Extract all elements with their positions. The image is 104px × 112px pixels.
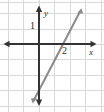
x-tick-label-2: 2 xyxy=(62,46,67,56)
x-axis-arrow-left xyxy=(4,41,10,47)
x-axis xyxy=(4,41,97,47)
graph-figure: y x 1 2 xyxy=(0,0,104,112)
y-axis-arrow-up xyxy=(36,6,42,13)
line-arrow-down xyxy=(31,98,37,103)
line-arrow-up xyxy=(77,8,83,13)
y-tick-label-1: 1 xyxy=(30,21,35,31)
y-axis-label: y xyxy=(44,9,48,18)
x-axis-label: x xyxy=(89,48,93,57)
y-axis-arrow-down xyxy=(36,100,42,107)
